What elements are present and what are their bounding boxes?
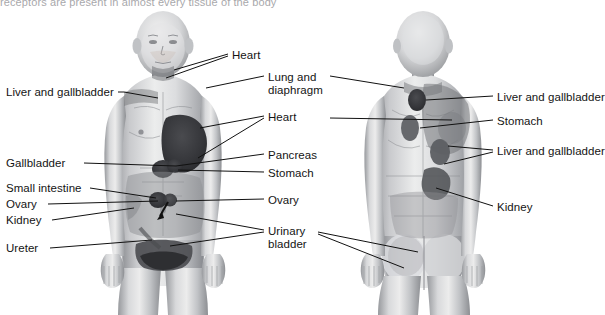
label-heart-upper: Heart — [232, 49, 260, 62]
label-heart-chest: Heart — [268, 111, 296, 124]
label-liver-and-gallbladder-mid: Liver and gallbladder — [497, 145, 605, 158]
label-ovary-center: Ovary — [268, 194, 299, 207]
label-stomach-front: Stomach — [268, 167, 314, 180]
label-ureter: Ureter — [6, 242, 38, 255]
label-ovary-left: Ovary — [6, 198, 37, 211]
label-pancreas: Pancreas — [268, 149, 317, 162]
label-lung-and-diaphragm: Lung and diaphragm — [268, 71, 332, 97]
label-liver-and-gallbladder-upper: Liver and gallbladder — [497, 91, 605, 104]
label-urinary-bladder: Urinary bladder — [268, 225, 324, 251]
anterior-figure-art — [101, 11, 226, 315]
label-gallbladder: Gallbladder — [6, 157, 65, 170]
posterior-figure-art — [361, 11, 486, 315]
label-stomach-back: Stomach — [497, 115, 543, 128]
label-liver-and-gallbladder: Liver and gallbladder — [6, 86, 114, 99]
label-kidney-back: Kidney — [497, 201, 532, 214]
label-kidney-left: Kidney — [6, 214, 41, 227]
label-small-intestine: Small intestine — [6, 182, 82, 195]
